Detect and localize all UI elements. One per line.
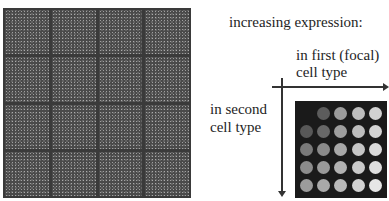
microarray-block xyxy=(145,105,189,149)
expression-dot xyxy=(317,179,330,192)
microarray-block xyxy=(52,105,96,149)
expression-dot xyxy=(334,107,347,120)
y-axis-label-line1: in second xyxy=(210,100,267,118)
microarray-block xyxy=(52,10,96,54)
microarray-block xyxy=(145,57,189,101)
expression-dot xyxy=(352,125,365,138)
expression-dot xyxy=(334,143,347,156)
expression-dot xyxy=(317,125,330,138)
x-axis-label-line1: in first (focal) xyxy=(296,46,379,64)
expression-dot xyxy=(352,161,365,174)
y-axis-label-line2: cell type xyxy=(210,118,261,136)
expression-dot xyxy=(334,179,347,192)
microarray-block xyxy=(5,57,49,101)
expression-dot xyxy=(369,107,382,120)
expression-dot xyxy=(300,125,313,138)
expression-dot xyxy=(369,125,382,138)
x-axis-arrow-icon xyxy=(383,83,389,91)
expression-dot xyxy=(300,179,313,192)
y-axis-arrow-icon xyxy=(278,191,286,197)
microarray-block xyxy=(145,10,189,54)
expression-dot-grid xyxy=(295,101,387,198)
microarray-block xyxy=(99,10,143,54)
expression-dot xyxy=(369,161,382,174)
expression-dot xyxy=(352,107,365,120)
expression-dot xyxy=(334,161,347,174)
expression-dot xyxy=(352,179,365,192)
microarray-image xyxy=(3,8,191,198)
expression-dot xyxy=(369,179,382,192)
expression-dot xyxy=(352,143,365,156)
microarray-block xyxy=(52,152,96,196)
y-axis-line xyxy=(281,78,283,192)
empty-dot-slot xyxy=(300,107,313,120)
expression-dot xyxy=(317,107,330,120)
expression-dot xyxy=(369,143,382,156)
microarray-block xyxy=(5,105,49,149)
microarray-block xyxy=(99,57,143,101)
expression-dot xyxy=(300,161,313,174)
expression-dot xyxy=(317,143,330,156)
legend-title: increasing expression: xyxy=(229,13,363,31)
x-axis-label-line2: cell type xyxy=(296,63,347,81)
microarray-block xyxy=(5,152,49,196)
expression-dot xyxy=(317,161,330,174)
x-axis-line xyxy=(272,86,384,88)
microarray-block xyxy=(99,152,143,196)
microarray-block xyxy=(145,152,189,196)
expression-dot xyxy=(300,143,313,156)
microarray-block xyxy=(52,57,96,101)
microarray-block xyxy=(99,105,143,149)
microarray-block xyxy=(5,10,49,54)
expression-dot xyxy=(334,125,347,138)
